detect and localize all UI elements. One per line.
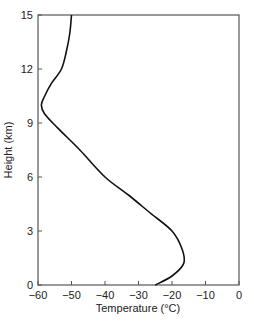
x-tick-label: −20	[163, 289, 182, 301]
x-tick-label: −30	[129, 289, 148, 301]
x-tick-label: 0	[236, 289, 242, 301]
plot-frame	[38, 15, 239, 285]
x-tick-label: −10	[196, 289, 215, 301]
y-tick-label: 9	[27, 117, 33, 129]
y-tick-label: 15	[21, 9, 33, 21]
x-axis-label: Temperature (°C)	[96, 302, 180, 314]
x-tick-label: −40	[96, 289, 115, 301]
y-axis-ticks: 03691215	[21, 9, 42, 291]
temperature-height-chart: −60−50−40−30−20−100 03691215 Temperature…	[0, 0, 254, 323]
y-tick-label: 0	[27, 279, 33, 291]
y-axis-label: Height (km)	[2, 122, 14, 179]
temperature-profile-line	[41, 15, 184, 285]
y-tick-label: 6	[27, 171, 33, 183]
x-tick-label: −50	[62, 289, 81, 301]
y-tick-label: 12	[21, 63, 33, 75]
x-axis-ticks: −60−50−40−30−20−100	[29, 281, 242, 301]
y-tick-label: 3	[27, 225, 33, 237]
